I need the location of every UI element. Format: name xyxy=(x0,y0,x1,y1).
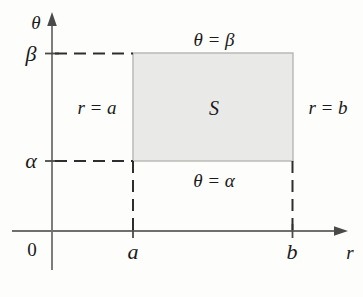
a-tick-label: a xyxy=(128,241,139,263)
origin-label: 0 xyxy=(27,240,37,259)
theta-axis-label: θ xyxy=(31,13,40,32)
b-tick-label: b xyxy=(287,241,298,263)
theta-equals-alpha-label: θ = α xyxy=(193,171,235,190)
theta-axis-arrowhead xyxy=(47,12,57,26)
r-axis-arrowhead xyxy=(334,226,348,236)
polar-rectangle-diagram: θ r 0 β α a b θ = β θ = α r = a r = b S xyxy=(0,0,363,297)
beta-tick-label: β xyxy=(26,43,37,65)
alpha-tick-label: α xyxy=(25,150,37,172)
theta-equals-beta-label: θ = β xyxy=(193,30,234,49)
region-s-label: S xyxy=(209,98,219,118)
r-equals-a-label: r = a xyxy=(77,98,116,117)
r-equals-b-label: r = b xyxy=(308,98,347,117)
r-axis-label: r xyxy=(346,243,353,262)
diagram-canvas xyxy=(0,0,363,297)
